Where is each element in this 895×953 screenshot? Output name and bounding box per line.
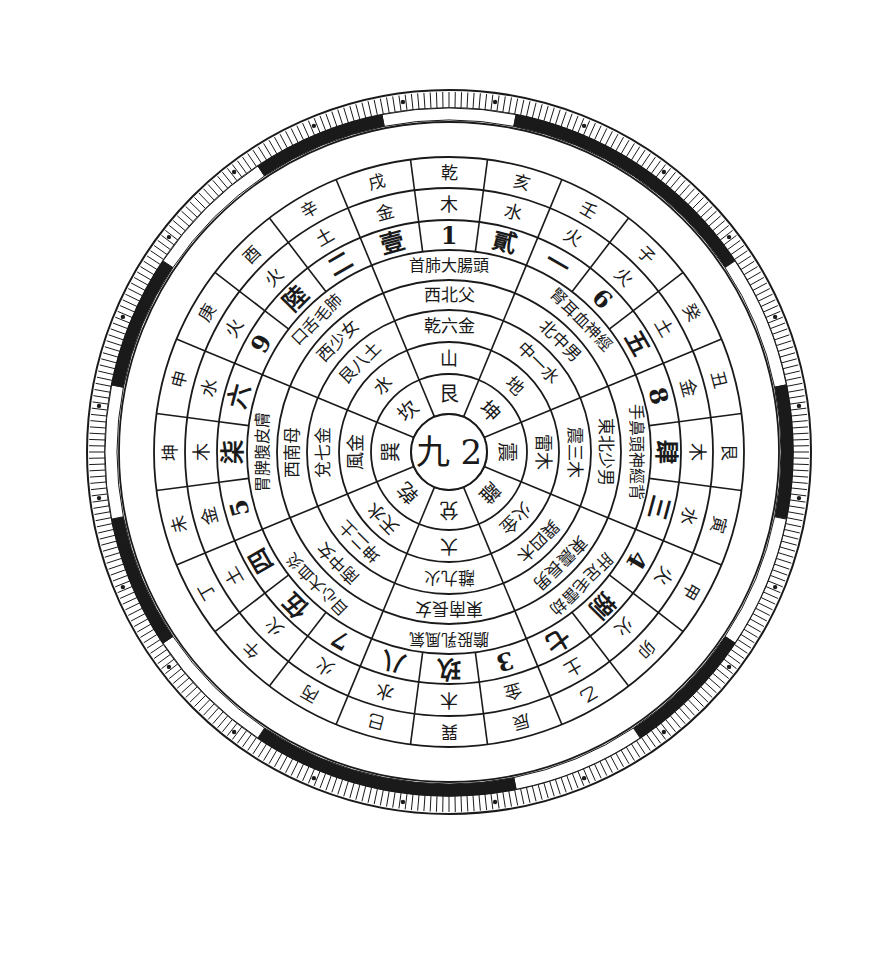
degree-tick — [594, 126, 601, 141]
degree-tick — [738, 256, 751, 265]
degree-tick — [113, 575, 128, 581]
degree-tick — [134, 619, 148, 627]
degree-tick — [503, 792, 506, 808]
degree-tick — [173, 221, 185, 231]
sector-divider — [290, 506, 318, 517]
tick-marker-dot — [312, 776, 316, 780]
degree-tick — [93, 402, 109, 404]
sector-divider — [580, 506, 608, 517]
sector-divider — [415, 190, 419, 222]
tick-marker-dot — [662, 170, 666, 174]
sector-divider — [176, 339, 205, 351]
degree-tick — [675, 712, 685, 724]
degree-tick — [137, 272, 151, 280]
degree-tick — [405, 95, 407, 111]
degree-tick — [791, 414, 807, 416]
sector-divider — [318, 494, 348, 506]
sector-divider — [235, 529, 263, 540]
sector-divider — [551, 494, 581, 506]
ring-cell-label: 5 — [223, 496, 255, 520]
band-segment — [105, 385, 123, 519]
degree-tick — [497, 793, 499, 809]
sector-divider — [649, 478, 679, 482]
degree-tick — [362, 786, 366, 802]
degree-tick — [101, 541, 116, 545]
sector-divider — [415, 682, 419, 714]
degree-tick — [772, 329, 787, 334]
degree-tick — [105, 553, 120, 558]
ring-cell-label: 東北少男 — [596, 418, 616, 486]
degree-tick — [258, 744, 266, 758]
degree-tick — [555, 779, 560, 794]
degree-tick — [194, 695, 205, 706]
degree-tick — [467, 796, 468, 812]
degree-tick — [679, 708, 690, 720]
degree-tick — [636, 150, 645, 163]
ring-cell-label: 木 — [687, 443, 708, 461]
degree-tick — [661, 723, 671, 736]
degree-tick — [147, 639, 160, 648]
band-segment — [775, 385, 793, 519]
degree-tick — [784, 529, 800, 533]
ring-cell-label: 五 — [618, 326, 655, 361]
degree-tick — [790, 494, 806, 496]
degree-tick — [154, 246, 167, 255]
tick-marker-dot — [167, 235, 171, 239]
degree-tick — [380, 99, 383, 115]
tick-marker-dot — [232, 730, 236, 734]
sector-divider — [372, 265, 383, 293]
degree-tick — [688, 193, 699, 205]
degree-tick — [111, 329, 126, 334]
degree-tick — [399, 793, 401, 809]
sector-divider — [521, 410, 551, 422]
sector-divider — [157, 413, 188, 417]
degree-tick — [144, 634, 158, 642]
degree-tick — [227, 723, 237, 736]
degree-tick — [320, 116, 326, 131]
degree-tick — [96, 518, 112, 521]
ring-cell-label: 膽股乳風氣 — [409, 630, 489, 649]
degree-tick — [731, 246, 744, 255]
sector-divider — [610, 661, 629, 686]
degree-tick — [181, 682, 193, 693]
degree-tick — [616, 137, 624, 151]
degree-tick — [793, 439, 809, 440]
degree-tick — [332, 112, 337, 127]
ring-cell-label: 水 — [197, 376, 222, 399]
sector-divider — [262, 375, 290, 386]
luopan-diagram: 艮坤震離兌乾巽坎山地雷木火金大天水風金水乾六金中一水震三木巽四木離九火坤二土兌七… — [0, 0, 895, 953]
sector-divider — [663, 351, 693, 363]
degree-tick — [92, 408, 108, 410]
sector-divider — [410, 160, 414, 191]
ring-cell-label: 乙 — [576, 681, 601, 707]
ring-cell-label: 巽 — [441, 722, 458, 742]
degree-tick — [784, 371, 800, 375]
degree-tick — [761, 597, 776, 604]
degree-tick — [610, 756, 618, 770]
ring-cell-label: 西南母 — [282, 427, 302, 478]
ring-cell-label: 火 — [560, 224, 586, 251]
degree-tick — [169, 668, 181, 678]
ring-cell-label: 巽 — [379, 442, 403, 462]
ring-cell-label: 火 — [650, 563, 677, 589]
ring-cell-label: 柒 — [218, 440, 247, 464]
sector-divider — [608, 375, 636, 386]
ring-cell-label: 雷木 — [533, 434, 554, 470]
band-segment — [258, 728, 384, 789]
ring-cell-label: 土 — [221, 563, 248, 589]
degree-tick — [113, 323, 128, 329]
degree-tick — [497, 96, 499, 112]
sector-divider — [526, 238, 537, 266]
degree-tick — [780, 547, 795, 551]
sector-divider — [636, 529, 664, 540]
ring-cell-label: 四 — [243, 543, 280, 578]
degree-tick — [222, 172, 232, 184]
degree-tick — [636, 741, 645, 754]
ring-cell-label: 六 — [222, 380, 256, 411]
tick-marker-dot — [727, 665, 731, 669]
degree-tick — [89, 464, 105, 465]
sector-divider — [187, 418, 219, 422]
degree-tick — [550, 108, 555, 123]
degree-tick — [741, 634, 755, 642]
degree-tick — [756, 289, 770, 296]
